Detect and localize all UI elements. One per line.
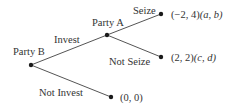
payoff-seize-vars: (a, b) <box>200 9 223 21</box>
label-seize: Seize <box>133 5 156 16</box>
label-party-b: Party B <box>13 46 45 57</box>
game-tree: Party B Party A Invest Seize Not Seize N… <box>0 0 229 112</box>
node-not-invest-terminal <box>109 95 113 99</box>
label-party-a: Party A <box>92 17 124 28</box>
node-party-a <box>105 33 109 37</box>
payoff-not-seize-vars: (c, d) <box>194 52 217 64</box>
label-not-seize: Not Seize <box>109 56 150 67</box>
payoff-not-seize-values: (2, 2) <box>171 52 194 64</box>
label-invest: Invest <box>54 34 80 45</box>
payoff-seize: (−2, 4)(a, b) <box>171 9 223 21</box>
edge-not-seize <box>107 35 161 57</box>
payoff-not-seize: (2, 2)(c, d) <box>171 52 216 64</box>
payoff-not-invest: (0, 0) <box>120 92 143 104</box>
node-not-seize-terminal <box>159 55 163 59</box>
payoff-seize-values: (−2, 4) <box>171 9 200 21</box>
label-not-invest: Not Invest <box>39 87 83 98</box>
node-party-b <box>29 63 33 67</box>
node-seize-terminal <box>159 12 163 16</box>
